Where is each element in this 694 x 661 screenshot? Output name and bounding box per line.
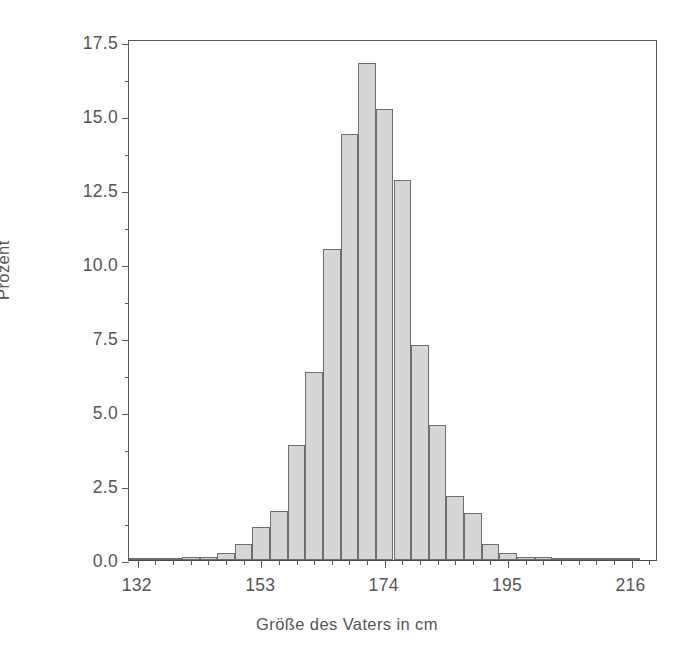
x-axis-minor-tick xyxy=(579,560,580,565)
x-axis-minor-tick xyxy=(455,560,456,565)
x-axis-tick-label: 216 xyxy=(615,575,645,596)
y-axis-tick xyxy=(122,562,129,563)
x-axis-minor-tick xyxy=(526,560,527,565)
x-axis-minor-tick xyxy=(244,560,245,565)
x-axis-minor-tick xyxy=(543,560,544,565)
histogram-bar xyxy=(323,249,341,560)
y-axis-minor-tick xyxy=(125,81,129,82)
histogram-figure: 0.02.55.07.510.012.515.017.5 13215317419… xyxy=(0,0,694,661)
histogram-bar xyxy=(482,544,500,560)
x-axis-minor-tick xyxy=(226,560,227,565)
x-axis-minor-tick xyxy=(614,560,615,565)
histogram-bar xyxy=(288,445,306,560)
y-axis-minor-tick xyxy=(125,155,129,156)
x-axis-minor-tick xyxy=(473,560,474,565)
x-axis-minor-tick xyxy=(402,560,403,565)
x-axis-minor-tick xyxy=(649,560,650,565)
x-axis-tick-label: 132 xyxy=(122,575,152,596)
x-axis-minor-tick xyxy=(561,560,562,565)
x-axis-tick-label: 195 xyxy=(492,575,522,596)
bar-series xyxy=(129,41,656,560)
histogram-bar xyxy=(341,134,359,560)
histogram-bar xyxy=(217,553,235,560)
histogram-bar xyxy=(446,496,464,560)
x-axis-tick-label: 153 xyxy=(245,575,275,596)
y-axis-tick xyxy=(122,192,129,193)
x-axis-minor-tick xyxy=(314,560,315,565)
x-axis-tick xyxy=(385,560,386,568)
x-axis-minor-tick xyxy=(279,560,280,565)
y-axis-tick-label: 0.0 xyxy=(0,551,118,572)
histogram-bar xyxy=(358,63,376,560)
plot-area xyxy=(128,40,657,561)
y-axis-tick-label: 2.5 xyxy=(0,476,118,497)
y-axis-title: Prozent xyxy=(0,240,13,300)
y-axis-tick-label: 7.5 xyxy=(0,328,118,349)
x-axis-minor-tick xyxy=(420,560,421,565)
x-axis-minor-tick xyxy=(596,560,597,565)
histogram-bar xyxy=(394,180,412,560)
x-axis-minor-tick xyxy=(208,560,209,565)
y-axis-tick-label: 10.0 xyxy=(0,254,118,275)
histogram-bar xyxy=(252,527,270,560)
histogram-bar xyxy=(376,109,394,560)
y-axis-tick xyxy=(122,44,129,45)
histogram-bar xyxy=(411,345,429,560)
y-axis-tick-label: 5.0 xyxy=(0,402,118,423)
y-axis-tick xyxy=(122,118,129,119)
histogram-bar xyxy=(270,511,288,560)
x-axis-tick-label: 174 xyxy=(369,575,399,596)
histogram-bar xyxy=(429,425,447,560)
y-axis-minor-tick xyxy=(125,451,129,452)
x-axis-title: Größe des Vaters in cm xyxy=(0,615,694,634)
x-axis-minor-tick xyxy=(438,560,439,565)
y-axis-tick xyxy=(122,340,129,341)
x-axis-minor-tick xyxy=(490,560,491,565)
y-axis-minor-tick xyxy=(125,525,129,526)
x-axis-minor-tick xyxy=(155,560,156,565)
x-axis-minor-tick xyxy=(367,560,368,565)
x-axis-minor-tick xyxy=(191,560,192,565)
x-axis-minor-tick xyxy=(332,560,333,565)
histogram-bar xyxy=(235,544,253,560)
y-axis-tick-label: 15.0 xyxy=(0,106,118,127)
histogram-bar xyxy=(499,553,517,560)
y-axis-minor-tick xyxy=(125,303,129,304)
y-axis-tick-label: 17.5 xyxy=(0,32,118,53)
x-axis-tick xyxy=(508,560,509,568)
x-axis-tick xyxy=(138,560,139,568)
x-axis-tick xyxy=(632,560,633,568)
x-axis-minor-tick xyxy=(349,560,350,565)
x-axis-minor-tick xyxy=(173,560,174,565)
y-axis-tick-label: 12.5 xyxy=(0,180,118,201)
x-axis-minor-tick xyxy=(297,560,298,565)
histogram-bar xyxy=(305,372,323,560)
y-axis-minor-tick xyxy=(125,377,129,378)
y-axis-tick xyxy=(122,266,129,267)
x-axis-tick xyxy=(261,560,262,568)
y-axis-tick xyxy=(122,488,129,489)
y-axis-tick xyxy=(122,414,129,415)
y-axis-minor-tick xyxy=(125,229,129,230)
histogram-bar xyxy=(464,513,482,560)
